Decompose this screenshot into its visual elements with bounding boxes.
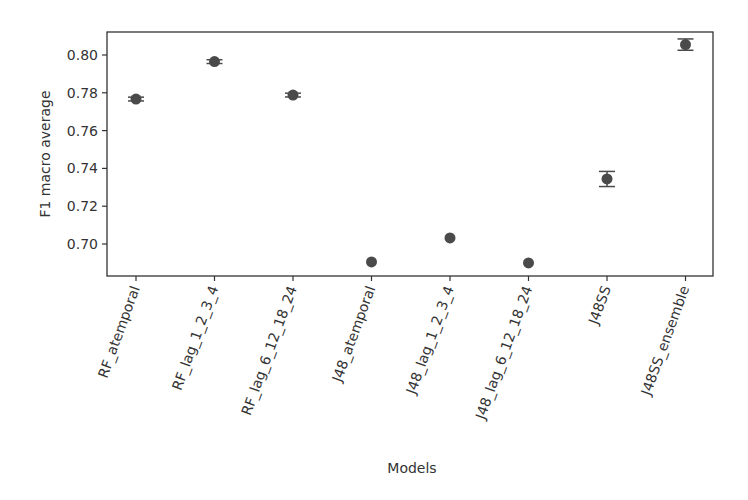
y-tick-label: 0.80 [67, 47, 98, 63]
y-tick-label: 0.70 [67, 236, 98, 252]
point-marker [131, 94, 142, 105]
data-point [523, 257, 534, 268]
data-point [128, 94, 144, 105]
point-marker [602, 173, 613, 184]
x-tick-label: J48SS_ensemble [638, 284, 693, 399]
point-marker [288, 90, 299, 101]
chart-figure: 0.700.720.740.760.780.80 RF_atemporalRF_… [0, 0, 748, 500]
y-tick-label: 0.78 [67, 85, 98, 101]
x-axis-ticks: RF_atemporalRF_lag_1_2_3_4RF_lag_6_12_18… [95, 276, 693, 422]
data-point [678, 39, 694, 50]
y-axis-label: F1 macro average [37, 90, 53, 217]
data-point [207, 56, 223, 67]
point-marker [445, 232, 456, 243]
plot-area-frame [107, 32, 713, 276]
x-tick-label: RF_lag_6_12_18_24 [238, 283, 300, 417]
y-tick-label: 0.74 [67, 160, 98, 176]
data-points [128, 39, 694, 268]
point-marker [680, 39, 691, 50]
data-point [366, 256, 377, 267]
point-marker [366, 256, 377, 267]
point-marker [523, 257, 534, 268]
point-marker [209, 56, 220, 67]
data-point [445, 232, 456, 243]
x-tick-label: J48_atemporal [328, 284, 378, 385]
y-tick-label: 0.72 [67, 198, 98, 214]
y-tick-label: 0.76 [67, 123, 98, 139]
x-axis-label: Models [387, 460, 436, 476]
x-tick-label: RF_atemporal [95, 284, 143, 380]
x-tick-label: J48SS [585, 283, 614, 327]
x-tick-label: RF_lag_1_2_3_4 [169, 283, 222, 392]
data-point [599, 171, 615, 186]
x-tick-label: J48_lag_6_12_18_24 [472, 283, 536, 422]
x-tick-label: J48_lag_1_2_3_4 [402, 283, 456, 397]
y-axis-ticks: 0.700.720.740.760.780.80 [67, 47, 107, 252]
data-point [285, 90, 301, 101]
